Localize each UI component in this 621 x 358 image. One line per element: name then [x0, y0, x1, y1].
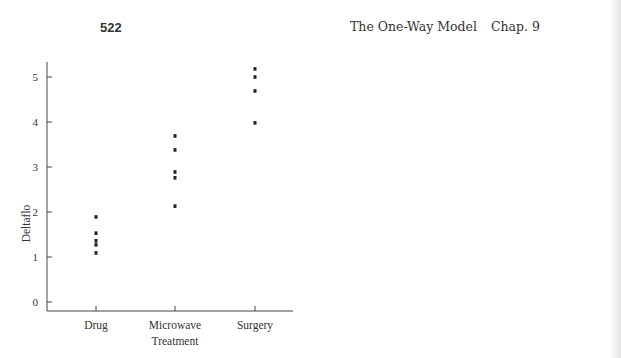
running-title: The One-Way Model	[350, 19, 477, 34]
chapter-label: Chap. 9	[491, 19, 540, 34]
running-head: The One-Way ModelChap. 9	[350, 19, 540, 34]
page-edge-shadow	[609, 0, 621, 358]
means-diamond-chart: 012345DrugMicrowaveSurgeryTreatmentDelta…	[0, 0, 311, 358]
